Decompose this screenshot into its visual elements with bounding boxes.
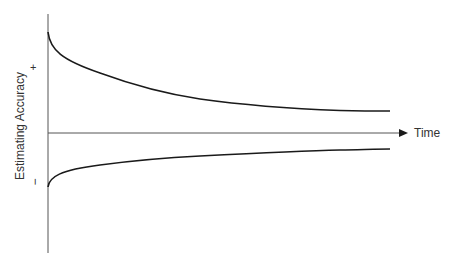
negative-marker: − <box>28 178 42 185</box>
upper-bound-curve <box>48 32 390 111</box>
chart-canvas <box>0 0 452 265</box>
lower-bound-curve <box>48 149 390 187</box>
positive-marker: + <box>30 61 36 73</box>
y-axis-label: Estimating Accuracy <box>13 72 27 180</box>
accuracy-funnel-chart: Estimating Accuracy + − Time <box>0 0 452 265</box>
x-axis-label: Time <box>414 126 440 140</box>
x-axis-arrow-icon <box>399 129 408 137</box>
